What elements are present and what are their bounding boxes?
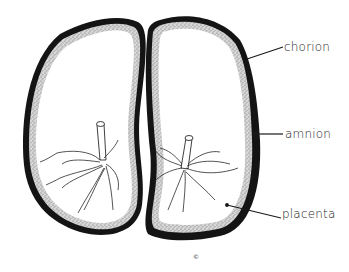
amnion-label: amnion [285,128,331,140]
placenta-label: placenta [282,208,336,220]
placenta-leader-dot [226,204,229,207]
right-sac [145,16,260,240]
chorion-label: chorion [284,41,330,53]
copyright-mark: © [193,253,199,260]
diagram-canvas: chorion amnion placenta © [0,0,349,272]
left-sac [23,18,146,235]
chorion-leader [247,47,283,59]
right-interior [159,29,246,225]
